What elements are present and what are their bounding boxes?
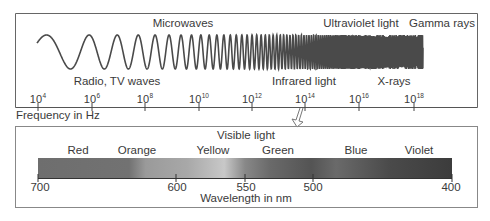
wavelength-tick-label: 500 (303, 181, 322, 193)
wavelength-tick-label: 700 (30, 181, 49, 193)
color-label-yellow: Yellow (197, 144, 230, 156)
freq-tick-label: 104 (30, 92, 46, 105)
wavelength-tick-label: 400 (441, 181, 460, 193)
freq-tick-label: 1014 (295, 92, 315, 105)
em-wave (37, 35, 423, 69)
band-label-radio-tv: Radio, TV waves (74, 75, 161, 87)
freq-tick-label: 106 (84, 92, 100, 105)
freq-tick-label: 1010 (189, 92, 209, 105)
visible-range-arrow (292, 108, 303, 127)
freq-tick-label: 1016 (349, 92, 369, 105)
band-label-microwaves: Microwaves (153, 17, 214, 29)
color-label-green: Green (262, 144, 294, 156)
wavelength-axis-title: Wavelength in nm (200, 192, 292, 204)
visible-light-title: Visible light (217, 129, 275, 141)
freq-tick-label: 108 (137, 92, 153, 105)
freq-tick-label: 1012 (242, 92, 262, 105)
band-label-ultraviolet: Ultraviolet light (323, 17, 398, 29)
frequency-axis-title: Frequency in Hz (16, 109, 100, 121)
color-label-red: Red (67, 144, 88, 156)
freq-tick-label: 1018 (404, 92, 424, 105)
band-label-gamma-rays: Gamma rays (409, 17, 475, 29)
color-label-violet: Violet (405, 144, 434, 156)
wavelength-tick-label: 600 (167, 181, 186, 193)
band-label-infrared: Infrared light (272, 75, 336, 87)
color-label-blue: Blue (344, 144, 367, 156)
color-label-orange: Orange (118, 144, 156, 156)
band-label-x-rays: X-rays (377, 75, 410, 87)
